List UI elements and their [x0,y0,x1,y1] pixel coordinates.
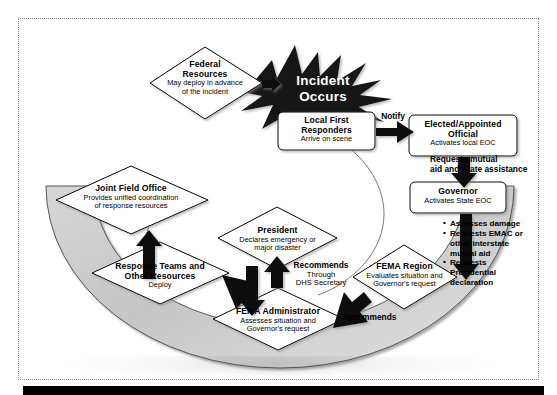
diagram-canvas: Incident Occurs Federal Resources May de… [0,0,557,395]
label-president: President Declares emergency or major di… [219,226,336,252]
label-fema-administrator: FEMA Administrator Assesses situation an… [210,307,346,333]
connector-label-requests-mutual-aid: Requests mutual aid and State assistance [430,155,555,174]
governor-actions-list: Assesses damage Requests EMAC orother in… [443,219,551,288]
label-elected-appointed-official: Elected/Appointed Official Activates loc… [410,120,516,148]
governor-action-item: Assesses damage [443,219,551,229]
label-joint-field-office: Joint Field Office Provides unified coor… [57,184,205,210]
label-response-teams: Response Teams and Other Resources Deplo… [93,262,227,290]
governor-action-item: Requests EMAC orother interstatemutual a… [443,229,551,259]
connector-label-recommends-dhs: Recommends Through DHS Secretary [280,261,362,288]
label-governor: Governor Activates State EOC [411,187,505,205]
incident-burst-label: Incident Occurs [280,73,366,106]
connector-label-recommends-region: Recommends [329,313,409,323]
label-fema-region: FEMA Region Evaluates situation and Gove… [351,262,458,288]
page-bottom-bar [23,386,544,395]
label-local-first-responders: Local First Responders Arrive on scene [279,116,374,144]
governor-action-item: RequestsPresidentialdeclaration [443,258,551,288]
label-federal-resources: Federal Resources May deploy in advance … [152,60,258,96]
connector-label-notify: Notify [369,112,417,122]
